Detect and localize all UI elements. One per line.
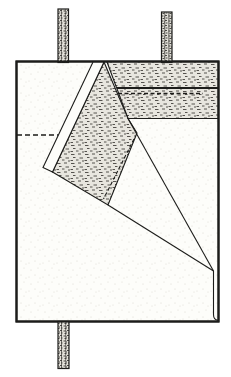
folded-sheet-diagram [0,0,231,377]
top-right-strap [162,12,173,63]
figure-canvas [0,0,231,377]
bottom-strap [58,322,69,369]
top-left-strap [58,9,69,63]
